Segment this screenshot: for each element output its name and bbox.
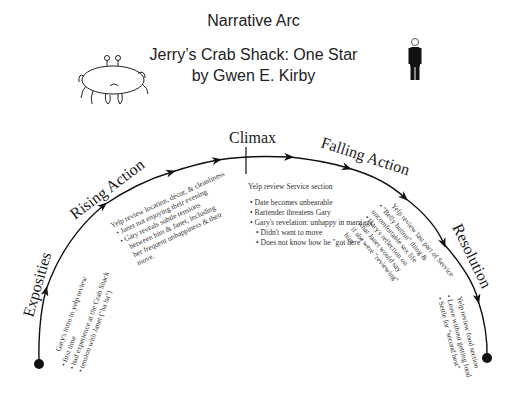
arc-end-dot [482, 353, 492, 363]
exposition-notes: Gary's intro to yelp review • first time… [49, 264, 119, 374]
climax-note-bullet: • Gary's revelation: unhappy in marriage… [248, 218, 375, 228]
crab-drawing-icon [79, 56, 148, 105]
stage-label-falling-action: Falling Action [319, 134, 412, 180]
climax-note-bullet: • Date becomes unbearable [248, 198, 375, 208]
rising-action-notes: Yelp review location, décor, & cleanline… [109, 169, 245, 271]
climax-notes: Yelp review Service section • Date becom… [248, 182, 375, 248]
standing-man-figure-icon [409, 39, 422, 81]
resolution-notes: Yelp review food section • Leave without… [436, 291, 484, 380]
stage-label-resolution: Resolution [449, 221, 495, 291]
climax-note-bullet: • Bartender threatens Gary [248, 208, 375, 218]
stage-label-climax: Climax [229, 129, 276, 146]
stage-label-exposition: Exposities [20, 250, 56, 319]
arc-start-dot [34, 359, 44, 369]
climax-note-sub-bullet: • Does not know how he "got here" [248, 238, 375, 248]
climax-note-sub-bullet: • Didn't want to move [248, 228, 375, 238]
climax-note-header: Yelp review Service section [248, 182, 375, 192]
